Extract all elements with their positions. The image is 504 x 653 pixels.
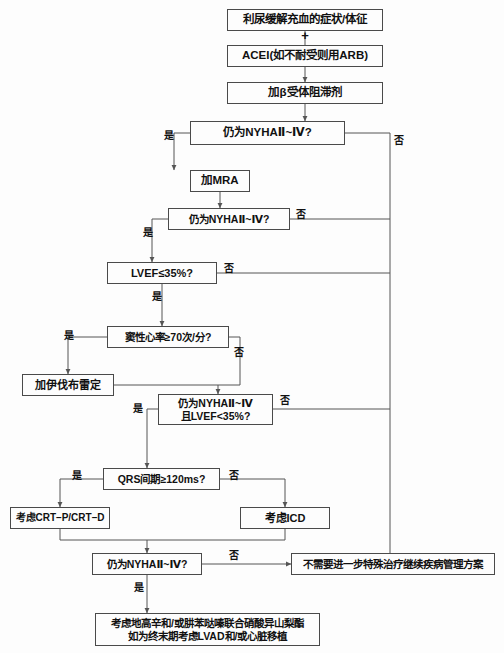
flow-node-nyha-1: 仍为NYHAⅡ~Ⅳ? [190,121,345,145]
flow-node-qrs: QRS间期≥120ms? [103,468,220,490]
flow-node-heart-rate: 窦性心率≥70次/分? [107,326,229,348]
flow-node-nyha-2: 仍为NYHAⅡ~Ⅳ? [168,208,290,230]
connector-c-icd-down [147,529,285,540]
connector-c-qrs-yes [60,479,103,507]
flow-node-lvef: LVEF≤35%? [107,262,217,284]
edge-label-no-7: 否 [229,551,239,561]
connector-c-nyha1-no [345,133,390,560]
edge-label-yes-5: 是 [133,404,143,414]
flow-node-acei: ACEI(如不耐受则用ARB) [227,45,383,67]
flow-node-no-further: 不需要进一步特殊治疗继续疾病管理方案 [291,553,495,575]
flow-node-beta-blocker: 加β受体阻滞剂 [227,82,383,104]
connector-c-crt-down [60,529,147,540]
connector-c-nyha1-yes [174,133,190,170]
connector-c-nyhalvef-yes [147,409,158,468]
edge-label-no-1: 否 [394,136,404,146]
flow-node-mra: 加MRA [190,170,250,192]
edge-label-no-3: 否 [224,264,234,274]
flow-node-advanced: 考虑地高辛和/或肼苯哒嗪联合硝酸异山梨酯 如为终末期考虑LVAD和/或心脏移植 [95,613,320,646]
connector-c-hr-yes [68,337,107,374]
edge-label-yes-6: 是 [72,471,82,481]
edge-label-yes-3: 是 [152,292,162,302]
flow-node-nyha-3: 仍为NYHAⅡ~Ⅳ? [92,553,202,575]
edge-label-no-4: 否 [234,348,244,358]
flow-node-ivabradine: 加伊伐布雷定 [22,374,114,396]
connector-c-qrs-no [220,479,285,507]
edge-label-no-2: 否 [296,210,306,220]
edge-label-yes-1: 是 [164,131,174,141]
plus-connector-symbol: + [301,29,309,42]
edge-label-yes-7: 是 [134,583,144,593]
edge-label-no-5: 否 [280,396,290,406]
edge-label-yes-2: 是 [143,228,153,238]
edge-label-no-6: 否 [229,471,239,481]
flow-node-icd: 考虑ICD [240,507,330,529]
flow-node-nyha-lvef: 仍为NYHAⅡ~Ⅳ 且LVEF<35%? [158,394,273,425]
edge-label-yes-4: 是 [64,331,74,341]
flowchart-canvas: 利尿缓解充血的症状/体征ACEI(如不耐受则用ARB)加β受体阻滞剂仍为NYHA… [0,0,504,653]
connector-c-nyha2-yes [152,219,168,262]
flow-node-crt: 考虑CRT–P/CRT–D [10,507,110,529]
